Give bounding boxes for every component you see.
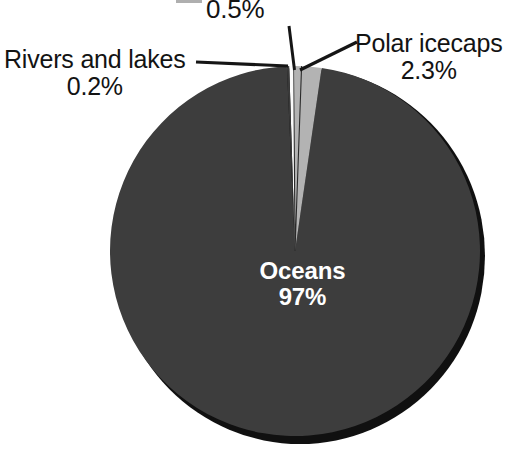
slice-value-rivers-and-lakes: 0.2% xyxy=(4,73,186,100)
slice-value-half-percent: 0.5% xyxy=(206,0,264,24)
slice-name-rivers-and-lakes: Rivers and lakes xyxy=(4,46,186,73)
leader-line-rivers-and-lakes xyxy=(196,62,288,66)
slice-label-oceans: Oceans 97% xyxy=(225,258,380,310)
slice-label-half-percent: 0.5% xyxy=(206,0,264,24)
slice-name-oceans: Oceans xyxy=(225,258,380,284)
slice-label-polar-icecaps: Polar icecaps 2.3% xyxy=(355,30,502,83)
leader-line-half-percent xyxy=(289,26,295,70)
slice-value-oceans: 97% xyxy=(225,284,380,310)
slice-label-rivers-and-lakes: Rivers and lakes 0.2% xyxy=(4,46,186,99)
slice-name-polar-icecaps: Polar icecaps xyxy=(355,30,502,57)
pie-chart-figure: 0.5% Rivers and lakes 0.2% Polar icecaps… xyxy=(0,0,521,455)
leader-line-polar-icecaps xyxy=(300,42,357,70)
slice-value-polar-icecaps: 2.3% xyxy=(355,57,502,84)
